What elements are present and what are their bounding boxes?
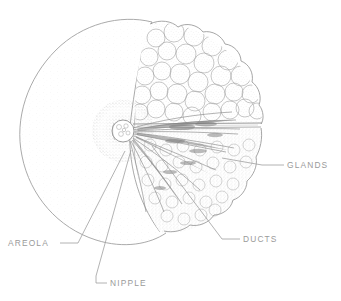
label-areola: AREOLA — [8, 238, 49, 248]
label-glands: GLANDS — [287, 160, 328, 170]
label-nipple: NIPPLE — [110, 278, 147, 288]
anatomy-illustration: AREOLA NIPPLE GLANDS DUCTS — [0, 0, 341, 301]
nipple-region — [112, 120, 134, 142]
nipple-outline — [112, 120, 134, 142]
anatomy-diagram-figure: AREOLA NIPPLE GLANDS DUCTS — [0, 0, 341, 301]
label-ducts: DUCTS — [243, 234, 278, 244]
